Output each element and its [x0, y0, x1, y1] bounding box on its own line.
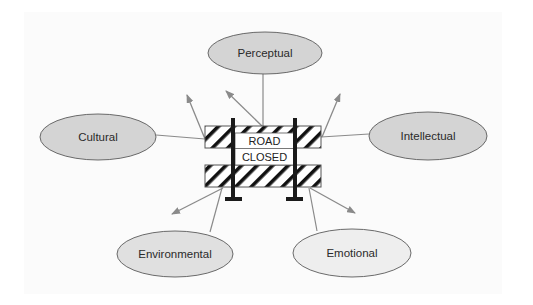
- node-environmental: Environmental: [117, 231, 233, 277]
- barricade-left-post: [231, 118, 235, 200]
- connector-environmental: [210, 188, 222, 232]
- node-cultural-label: Cultural: [78, 131, 118, 143]
- sign-text-closed: CLOSED: [242, 151, 287, 163]
- sign-text-road: ROAD: [249, 135, 281, 147]
- node-intellectual: Intellectual: [369, 112, 487, 160]
- node-emotional-label: Emotional: [326, 247, 377, 259]
- node-cultural: Cultural: [40, 114, 156, 160]
- node-perceptual: Perceptual: [208, 32, 322, 74]
- arrow-down-left: [172, 188, 223, 214]
- barriers-diagram: ROAD CLOSED Perceptual Cultural Intellec…: [0, 0, 533, 305]
- connector-cultural: [156, 135, 205, 139]
- barricade-bottom-rail: [205, 165, 321, 187]
- connector-emotional: [309, 188, 317, 231]
- arrow-down-right: [310, 188, 355, 213]
- node-perceptual-label: Perceptual: [238, 47, 293, 59]
- connector-intellectual: [321, 134, 369, 137]
- node-emotional: Emotional: [293, 229, 411, 277]
- arrow-up-left-outer: [187, 95, 205, 139]
- barricade-right-foot: [286, 197, 303, 201]
- arrow-up-right: [322, 94, 340, 137]
- barricade-left-foot: [225, 197, 242, 201]
- node-intellectual-label: Intellectual: [401, 130, 456, 142]
- barricade-right-post: [293, 118, 297, 200]
- diagram-canvas: ROAD CLOSED Perceptual Cultural Intellec…: [0, 0, 533, 305]
- node-environmental-label: Environmental: [138, 248, 212, 260]
